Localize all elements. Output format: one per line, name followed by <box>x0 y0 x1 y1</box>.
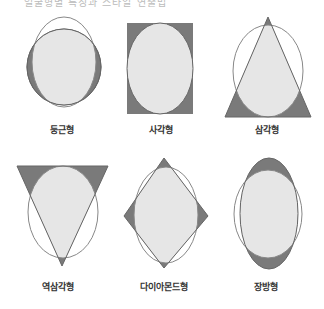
label-inverted-triangle: 역삼각형 <box>42 280 74 293</box>
diamond-face-shape <box>124 158 208 268</box>
square-face-shape <box>127 23 193 114</box>
label-oblong: 장방형 <box>254 280 278 293</box>
label-round: 둥근형 <box>50 123 74 136</box>
round-face-shape <box>27 17 101 107</box>
label-diamond: 다이아몬드형 <box>140 280 188 293</box>
label-triangle: 삼각형 <box>255 123 279 136</box>
triangle-face-shape <box>225 17 311 117</box>
oblong-face-shape <box>234 158 302 269</box>
face-shapes-diagram <box>0 0 324 309</box>
label-square: 사각형 <box>149 123 173 136</box>
inverted-triangle-face-shape <box>17 166 108 266</box>
